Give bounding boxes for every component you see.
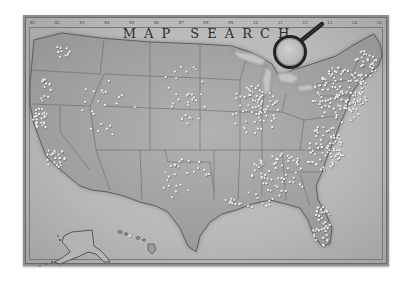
- location-pin[interactable]: [340, 142, 342, 144]
- location-pin[interactable]: [40, 97, 42, 99]
- location-pin[interactable]: [313, 235, 315, 237]
- location-pin[interactable]: [277, 158, 279, 160]
- location-pin[interactable]: [295, 171, 297, 173]
- location-pin[interactable]: [32, 119, 34, 121]
- location-pin[interactable]: [267, 189, 269, 191]
- location-pin[interactable]: [134, 106, 136, 108]
- location-pin[interactable]: [253, 163, 255, 165]
- location-pin[interactable]: [314, 86, 316, 88]
- location-pin[interactable]: [307, 161, 309, 163]
- location-pin[interactable]: [329, 102, 331, 104]
- location-pin[interactable]: [338, 157, 340, 159]
- location-pin[interactable]: [85, 88, 87, 90]
- location-pin[interactable]: [48, 150, 50, 152]
- location-pin[interactable]: [175, 190, 177, 192]
- location-pin[interactable]: [35, 112, 37, 114]
- location-pin[interactable]: [273, 114, 275, 116]
- location-pin[interactable]: [375, 59, 377, 61]
- location-pin[interactable]: [185, 114, 187, 116]
- location-pin[interactable]: [118, 96, 120, 98]
- location-pin[interactable]: [327, 89, 329, 91]
- location-pin[interactable]: [249, 90, 251, 92]
- location-pin[interactable]: [324, 230, 326, 232]
- location-pin[interactable]: [187, 104, 189, 106]
- location-pin[interactable]: [41, 80, 43, 82]
- location-pin[interactable]: [238, 203, 240, 205]
- location-pin[interactable]: [90, 128, 92, 130]
- location-pin[interactable]: [285, 190, 287, 192]
- location-pin[interactable]: [264, 174, 266, 176]
- location-pin[interactable]: [248, 88, 250, 90]
- location-pin[interactable]: [93, 90, 95, 92]
- location-pin[interactable]: [326, 210, 328, 212]
- location-pin[interactable]: [320, 208, 322, 210]
- location-pin[interactable]: [256, 197, 258, 199]
- location-pin[interactable]: [280, 154, 282, 156]
- location-pin[interactable]: [332, 163, 334, 165]
- location-pin[interactable]: [84, 101, 86, 103]
- location-pin[interactable]: [35, 109, 37, 111]
- location-pin[interactable]: [276, 100, 278, 102]
- location-pin[interactable]: [178, 161, 180, 163]
- location-pin[interactable]: [322, 89, 324, 91]
- location-pin[interactable]: [360, 51, 362, 53]
- location-pin[interactable]: [321, 115, 323, 117]
- location-pin[interactable]: [329, 142, 331, 144]
- location-pin[interactable]: [259, 89, 261, 91]
- location-pin[interactable]: [367, 59, 369, 61]
- location-pin[interactable]: [111, 133, 113, 135]
- location-pin[interactable]: [229, 202, 231, 204]
- location-pin[interactable]: [340, 99, 342, 101]
- location-pin[interactable]: [47, 164, 49, 166]
- location-pin[interactable]: [193, 96, 195, 98]
- location-pin[interactable]: [185, 71, 187, 73]
- location-pin[interactable]: [321, 146, 323, 148]
- location-pin[interactable]: [360, 83, 362, 85]
- location-pin[interactable]: [330, 166, 332, 168]
- location-pin[interactable]: [312, 229, 314, 231]
- location-pin[interactable]: [245, 109, 247, 111]
- location-pin[interactable]: [252, 107, 254, 109]
- location-pin[interactable]: [272, 95, 274, 97]
- location-pin[interactable]: [281, 152, 283, 154]
- location-pin[interactable]: [177, 99, 179, 101]
- location-pin[interactable]: [257, 99, 259, 101]
- location-pin[interactable]: [328, 73, 330, 75]
- location-pin[interactable]: [369, 55, 371, 57]
- location-pin[interactable]: [43, 86, 45, 88]
- location-pin[interactable]: [314, 153, 316, 155]
- location-pin[interactable]: [268, 170, 270, 172]
- location-pin[interactable]: [189, 116, 191, 118]
- location-pin[interactable]: [258, 116, 260, 118]
- location-pin[interactable]: [313, 233, 315, 235]
- location-pin[interactable]: [360, 74, 362, 76]
- location-pin[interactable]: [231, 202, 233, 204]
- location-pin[interactable]: [52, 152, 54, 154]
- location-pin[interactable]: [326, 130, 328, 132]
- location-pin[interactable]: [278, 195, 280, 197]
- location-pin[interactable]: [319, 158, 321, 160]
- location-pin[interactable]: [345, 91, 347, 93]
- location-pin[interactable]: [277, 177, 279, 179]
- location-pin[interactable]: [325, 100, 327, 102]
- location-pin[interactable]: [333, 137, 335, 139]
- location-pin[interactable]: [177, 165, 179, 167]
- location-pin[interactable]: [372, 56, 374, 58]
- location-pin[interactable]: [342, 93, 344, 95]
- location-pin[interactable]: [254, 121, 256, 123]
- location-pin[interactable]: [350, 92, 352, 94]
- location-pin[interactable]: [371, 62, 373, 64]
- location-pin[interactable]: [225, 199, 227, 201]
- location-pin[interactable]: [327, 145, 329, 147]
- location-pin[interactable]: [369, 75, 371, 77]
- location-pin[interactable]: [297, 163, 299, 165]
- location-pin[interactable]: [347, 99, 349, 101]
- location-pin[interactable]: [274, 184, 276, 186]
- location-pin[interactable]: [318, 229, 320, 231]
- location-pin[interactable]: [186, 172, 188, 174]
- location-pin[interactable]: [280, 190, 282, 192]
- location-pin[interactable]: [322, 126, 324, 128]
- location-pin[interactable]: [168, 176, 170, 178]
- location-pin[interactable]: [277, 109, 279, 111]
- location-pin[interactable]: [165, 76, 167, 78]
